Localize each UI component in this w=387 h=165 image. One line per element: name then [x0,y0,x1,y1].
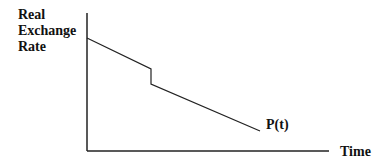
x-axis-label: Time [340,144,371,160]
curve-label: P(t) [266,117,289,133]
diagram: Real Exchange Rate P(t) Time [0,0,387,165]
exchange-rate-curve [87,38,260,131]
plot-area [0,0,387,165]
